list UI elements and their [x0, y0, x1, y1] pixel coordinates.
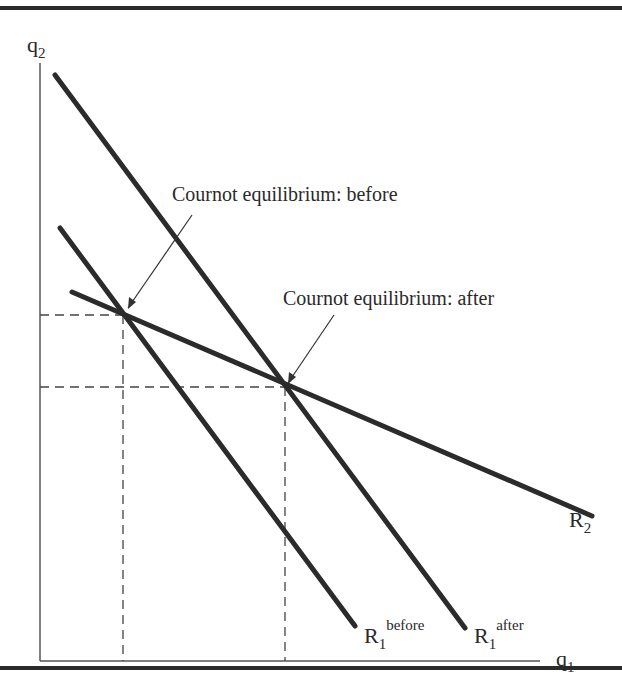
cournot-diagram: Cournot equilibrium: before Cournot equi… [0, 0, 622, 681]
x-axis-label: q1 [556, 646, 575, 675]
after-arrow [288, 315, 334, 383]
before-arrow [128, 215, 192, 308]
top-border [0, 6, 622, 10]
r1-after-line [55, 75, 465, 628]
bottom-border [0, 666, 622, 670]
r1-after-label: R1after [474, 617, 524, 652]
r2-label: R2 [569, 507, 591, 536]
before-annotation: Cournot equilibrium: before [172, 183, 398, 206]
r2-line [72, 292, 592, 516]
r1-before-label: R1before [364, 617, 425, 652]
after-annotation: Cournot equilibrium: after [283, 287, 494, 310]
y-axis-label: q2 [27, 32, 46, 61]
